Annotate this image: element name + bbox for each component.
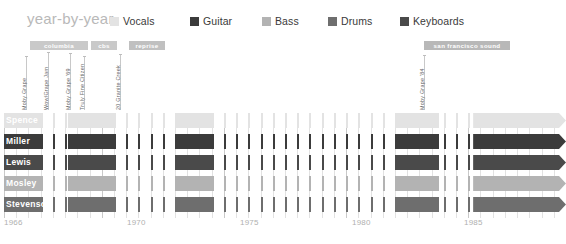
legend-label: Keyboards [413, 15, 464, 27]
timeline-row-mosley[interactable]: Mosley [0, 176, 566, 191]
row-tick [371, 176, 373, 191]
row-tick [126, 176, 128, 191]
record-label-cbs[interactable]: cbs [91, 41, 117, 50]
row-tick [248, 113, 250, 128]
row-tick [468, 134, 470, 149]
timeline-row-stevenson[interactable]: Stevenson [0, 197, 566, 212]
activity-segment[interactable] [175, 113, 214, 128]
row-tick [358, 134, 360, 149]
activity-segment[interactable] [395, 176, 439, 191]
album-annotation[interactable]: Moby Grape [26, 56, 38, 110]
activity-segment[interactable] [473, 155, 566, 170]
activity-segment[interactable] [68, 155, 114, 170]
row-tick [224, 197, 226, 212]
row-tick [371, 134, 373, 149]
row-tick [346, 155, 348, 170]
row-tick [456, 197, 458, 212]
row-tick [163, 197, 165, 212]
record-label-reprise[interactable]: reprise [129, 41, 165, 50]
row-tick [346, 197, 348, 212]
row-tick [273, 176, 275, 191]
row-tick [346, 134, 348, 149]
legend-item-keyboards[interactable]: Keyboards [400, 11, 464, 27]
row-tick [309, 176, 311, 191]
row-tick [151, 134, 153, 149]
row-tick [297, 113, 299, 128]
row-tick [334, 176, 336, 191]
activity-segment[interactable] [68, 113, 114, 128]
album-annotation[interactable]: Truly Fine Citizen [84, 56, 96, 110]
page-title: year-by-year [27, 10, 114, 27]
row-label-spence: Spence [6, 113, 38, 128]
annotation-tick [69, 53, 72, 54]
legend-label: Guitar [203, 15, 232, 27]
axis-tick-1980: 1980 [352, 218, 371, 227]
row-tick [138, 197, 140, 212]
record-label-text: columbia [44, 41, 74, 50]
row-tick [151, 113, 153, 128]
legend-swatch-icon [262, 17, 271, 26]
activity-segment[interactable] [175, 155, 214, 170]
row-tick [334, 155, 336, 170]
axis-tick-1970: 1970 [127, 218, 146, 227]
activity-segment[interactable] [395, 134, 439, 149]
row-tick [114, 155, 116, 170]
activity-segment[interactable] [175, 176, 214, 191]
row-tick [468, 155, 470, 170]
activity-segment[interactable] [68, 134, 114, 149]
row-tick [309, 113, 311, 128]
row-tick [138, 134, 140, 149]
row-tick [456, 176, 458, 191]
row-tick [114, 113, 116, 128]
row-tick [371, 113, 373, 128]
row-tick [151, 176, 153, 191]
row-tick [138, 155, 140, 170]
timeline-row-spence[interactable]: Spence [0, 113, 566, 128]
activity-segment[interactable] [175, 197, 214, 212]
row-tick [236, 155, 238, 170]
row-tick [248, 134, 250, 149]
row-tick [126, 134, 128, 149]
legend-item-guitar[interactable]: Guitar [190, 11, 232, 27]
activity-segment[interactable] [473, 134, 566, 149]
legend-item-vocals[interactable]: Vocals [110, 11, 155, 27]
row-tick [114, 134, 116, 149]
activity-segment[interactable] [395, 113, 439, 128]
row-tick [285, 134, 287, 149]
row-tick [383, 155, 385, 170]
album-annotation[interactable]: Moby Grape '84 [424, 55, 436, 110]
activity-segment[interactable] [473, 176, 566, 191]
activity-segment[interactable] [473, 197, 566, 212]
row-tick [248, 197, 250, 212]
record-label-columbia[interactable]: columbia [30, 41, 88, 50]
activity-segment[interactable] [175, 134, 214, 149]
row-tick [236, 197, 238, 212]
row-tick [53, 134, 55, 149]
row-tick [383, 176, 385, 191]
activity-segment[interactable] [395, 155, 439, 170]
record-label-san-francisco-sound[interactable]: san francisco sound [424, 41, 510, 50]
row-tick [41, 113, 43, 128]
record-label-text: san francisco sound [434, 41, 501, 50]
legend-label: Drums [341, 15, 372, 27]
activity-segment[interactable] [395, 197, 439, 212]
record-label-text: reprise [135, 41, 158, 50]
axis-tick-1975: 1975 [240, 218, 259, 227]
legend-item-drums[interactable]: Drums [328, 11, 372, 27]
activity-segment[interactable] [473, 113, 566, 128]
annotation-label: Wow/Grape Jam [43, 67, 49, 110]
annotation-tick [47, 52, 50, 53]
album-annotation[interactable]: 20 Granite Creek [120, 54, 132, 110]
row-tick [126, 155, 128, 170]
album-annotation[interactable]: Wow/Grape Jam [48, 52, 60, 110]
timeline-row-lewis[interactable]: Lewis [0, 155, 566, 170]
row-label-lewis: Lewis [6, 155, 31, 170]
legend-item-bass[interactable]: Bass [262, 11, 299, 27]
activity-segment[interactable] [68, 176, 114, 191]
activity-segment[interactable] [68, 197, 114, 212]
row-tick [383, 113, 385, 128]
annotation-tick [83, 56, 86, 57]
row-tick [261, 113, 263, 128]
timeline-row-miller[interactable]: Miller [0, 134, 566, 149]
row-tick [236, 134, 238, 149]
